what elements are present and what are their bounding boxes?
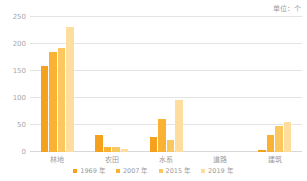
legend-item[interactable]: 2015 年 xyxy=(159,167,192,175)
bar-group xyxy=(204,17,237,152)
legend-item[interactable]: 1969 年 xyxy=(73,167,106,175)
legend-swatch-icon xyxy=(116,169,120,173)
x-axis-label: 农田 xyxy=(105,156,119,165)
bar[interactable] xyxy=(284,122,292,152)
bar[interactable] xyxy=(95,135,103,152)
legend-swatch-icon xyxy=(73,169,77,173)
legend-swatch-icon xyxy=(159,169,163,173)
y-tick-label: 250 xyxy=(13,13,26,21)
x-axis-label: 建筑 xyxy=(268,156,282,165)
y-tick-label: 200 xyxy=(13,40,26,48)
legend-label: 2019 年 xyxy=(208,167,234,175)
bar[interactable] xyxy=(167,140,175,152)
legend-item[interactable]: 2019 年 xyxy=(201,167,234,175)
bar[interactable] xyxy=(175,100,183,152)
bar[interactable] xyxy=(104,147,112,152)
legend-swatch-icon xyxy=(201,169,205,173)
bar-group xyxy=(41,17,74,152)
legend-label: 2007 年 xyxy=(123,167,149,175)
bar[interactable] xyxy=(275,126,283,152)
bar[interactable] xyxy=(112,147,120,152)
x-axis-label: 林地 xyxy=(50,156,64,165)
legend-label: 1969 年 xyxy=(80,167,106,175)
y-tick-label: 100 xyxy=(13,94,26,102)
bar-group xyxy=(258,17,291,152)
bar[interactable] xyxy=(66,27,74,152)
x-axis-label: 道路 xyxy=(213,156,227,165)
y-tick-label: 0 xyxy=(22,148,26,156)
bar-chart: 单位：个 050100150200250 林地农田水系道路建筑 1969 年20… xyxy=(0,0,307,181)
bar[interactable] xyxy=(258,150,266,152)
x-axis-label: 水系 xyxy=(159,156,173,165)
bar[interactable] xyxy=(267,135,275,152)
unit-caption: 单位：个 xyxy=(273,5,301,14)
bar[interactable] xyxy=(41,66,49,152)
legend-label: 2015 年 xyxy=(166,167,192,175)
y-tick-label: 150 xyxy=(13,67,26,75)
bar[interactable] xyxy=(49,52,57,152)
y-tick-label: 50 xyxy=(17,121,26,129)
bar-group xyxy=(150,17,183,152)
bar-group xyxy=(95,17,128,152)
chart-legend: 1969 年2007 年2015 年2019 年 xyxy=(0,167,307,175)
bar[interactable] xyxy=(158,119,166,152)
plot-area: 050100150200250 xyxy=(30,17,302,152)
legend-item[interactable]: 2007 年 xyxy=(116,167,149,175)
bar[interactable] xyxy=(121,149,129,152)
bar[interactable] xyxy=(58,48,66,152)
bars-layer xyxy=(30,17,302,152)
bar[interactable] xyxy=(150,137,158,152)
